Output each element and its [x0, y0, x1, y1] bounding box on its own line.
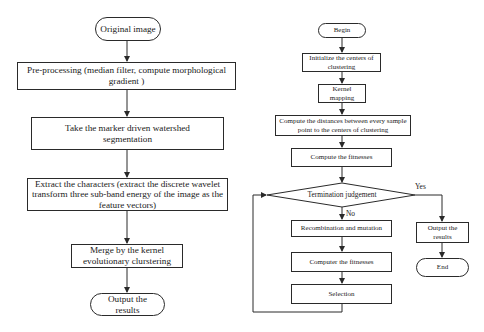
connectors — [0, 0, 484, 332]
left-step-extract-features: Extract the characters (extract the disc… — [27, 178, 228, 211]
left-step-merge: Merge by the kernel evolutionary clurste… — [71, 244, 183, 268]
right-step-output-results: Output the results — [416, 222, 469, 243]
decision-termination-judgement: Termination judgement — [292, 190, 392, 199]
left-end-terminal: Output the results — [90, 293, 165, 316]
right-step-selection: Selection — [291, 284, 392, 304]
right-step-kernel-mapping: Kernel mapping — [318, 84, 366, 103]
right-begin-terminal: Begin — [318, 23, 366, 38]
right-end-terminal: End — [416, 258, 469, 277]
left-step-preprocessing: Pre-processing (median filter, compute m… — [17, 62, 236, 90]
left-start-terminal: Original image — [95, 17, 161, 41]
decision-yes-label: Yes — [415, 182, 426, 191]
right-step-compute-fitnesses: Compute the fitnesses — [291, 148, 392, 167]
decision-no-label: No — [346, 209, 355, 218]
left-step-watershed: Take the marker driven watershed segment… — [31, 117, 224, 150]
right-step-computer-fitnesses: Computer the fitnesses — [291, 252, 392, 272]
right-step-recombination-mutation: Recombination and mutation — [291, 220, 392, 237]
right-step-compute-distances: Compute the distances between every samp… — [275, 115, 411, 136]
right-step-initialize-centers: Initialize the centers of clustering — [302, 53, 381, 72]
